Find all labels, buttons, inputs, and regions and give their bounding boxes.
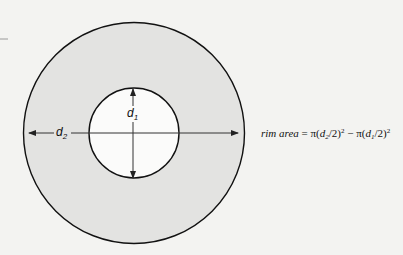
formula-lhs: rim area xyxy=(261,127,299,139)
formula-term1-prefix: π( xyxy=(311,127,320,139)
formula-minus: − xyxy=(344,127,356,139)
formula-term2-exp: 2 xyxy=(387,127,391,135)
formula-equals: = xyxy=(299,127,311,139)
formula-term2-suffix: /2) xyxy=(374,127,386,139)
formula-term1-suffix: /2) xyxy=(329,127,341,139)
rim-area-formula: rim area = π(d2/2)2 − π(d1/2)2 xyxy=(261,127,390,141)
